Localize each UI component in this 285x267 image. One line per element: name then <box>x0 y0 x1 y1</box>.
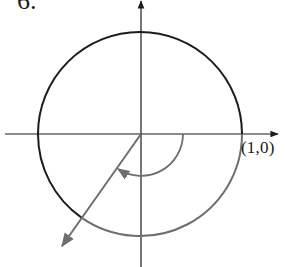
unit-circle-black-arc <box>38 32 242 218</box>
angle-arc <box>118 134 183 176</box>
point-label-1-0: (1,0) <box>241 139 275 156</box>
unit-circle-diagram <box>0 0 285 267</box>
